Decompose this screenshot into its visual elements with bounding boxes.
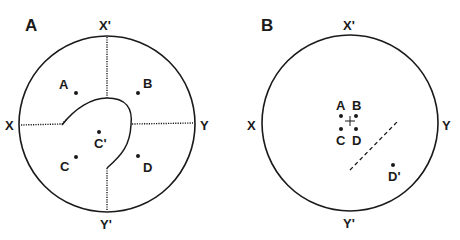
panel-b: B X' Y' X Y A B C D D' [247, 16, 451, 231]
panel-a-divider-left [21, 120, 66, 125]
panel-b-point-c [339, 127, 343, 131]
panel-b-axis-bottom-label: Y' [343, 216, 355, 231]
panel-a-point-d [136, 154, 140, 158]
panel-a-label: A [25, 16, 37, 35]
panel-b-axis-right-label: Y [442, 118, 451, 133]
panel-a-point-a [74, 91, 78, 95]
panel-a-point-d-label: D [143, 160, 152, 175]
panel-b-point-c-label: C [336, 133, 346, 148]
panel-b-point-b [354, 114, 358, 118]
panel-b-axis-left-label: X [247, 118, 256, 133]
panel-b-point-a [339, 114, 343, 118]
panel-b-point-d [354, 127, 358, 131]
panel-a-point-b-label: B [143, 76, 152, 91]
panel-a-point-b [136, 91, 140, 95]
panel-a-point-c-prime-label: C' [94, 136, 106, 151]
panel-a: A X' Y' X Y A B C D C' [5, 16, 209, 232]
panel-a-axis-right-label: Y [200, 118, 209, 133]
panel-a-divider-right [132, 123, 193, 124]
figure: A X' Y' X Y A B C D C' B X' Y' X Y [0, 0, 460, 240]
panel-b-point-d-prime [391, 163, 395, 167]
panel-a-point-c [74, 155, 78, 159]
panel-b-axis-top-label: X' [343, 18, 355, 33]
panel-a-point-c-label: C [60, 159, 70, 174]
panel-b-point-d-label: D [352, 133, 361, 148]
panel-b-point-b-label: B [352, 98, 361, 113]
panel-a-point-a-label: A [59, 77, 69, 92]
panel-a-boundary-curve [62, 98, 131, 168]
panel-a-axis-left-label: X [5, 118, 14, 133]
panel-a-axis-bottom-label: Y' [100, 217, 112, 232]
panel-b-label: B [261, 16, 273, 35]
panel-a-point-c-prime [97, 130, 101, 134]
panel-a-axis-top-label: X' [99, 18, 111, 33]
panel-b-point-a-label: A [336, 98, 346, 113]
panel-b-point-d-prime-label: D' [388, 169, 400, 184]
